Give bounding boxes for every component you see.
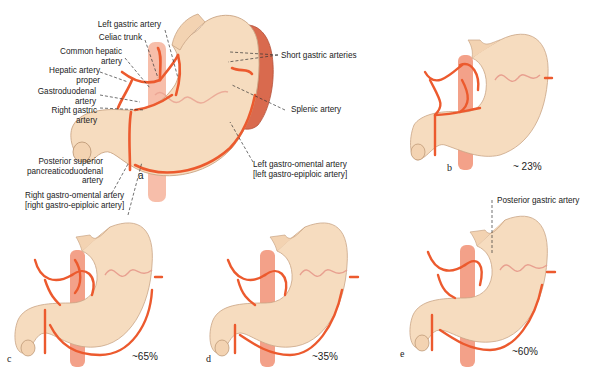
- label-left-gastric-artery: Left gastric artery: [98, 20, 161, 30]
- label-short-gastric-arteries: Short gastric arteries: [281, 51, 357, 61]
- label-celiac-trunk: Celiac trunk: [99, 33, 142, 43]
- label-line: artery: [101, 57, 122, 66]
- label-line: artery: [75, 97, 96, 106]
- label-line: Posterior superior: [38, 157, 103, 166]
- panel-letter-c: c: [7, 353, 11, 364]
- panel-b: b ~ 23%: [400, 20, 600, 170]
- panel-b-illustration: [400, 20, 600, 170]
- label-line: artery: [82, 176, 103, 185]
- panel-letter-b: b: [447, 162, 452, 173]
- panel-a: Left gastric artery Celiac trunk Common …: [0, 0, 330, 210]
- percentage-e: ~60%: [512, 346, 538, 357]
- percentage-b: ~ 23%: [513, 161, 542, 172]
- panel-letter-e: e: [400, 348, 404, 359]
- label-line: pancreaticoduodenal: [27, 167, 103, 176]
- label-common-hepatic-artery: Common hepatic artery: [60, 47, 122, 66]
- panel-c: c ~65%: [0, 215, 200, 367]
- label-line: Gastroduodenal: [38, 87, 96, 96]
- label-hepatic-artery-proper: Hepatic artery proper: [49, 66, 100, 85]
- label-line: Right gastric: [51, 106, 97, 115]
- panel-letter-d: d: [206, 353, 211, 364]
- label-posterior-gastric-artery: Posterior gastric artery: [497, 196, 579, 206]
- label-posterior-superior-pancreaticoduodenal-artery: Posterior superior pancreaticoduodenal a…: [27, 157, 103, 186]
- label-line: artery: [76, 116, 97, 125]
- label-line: [right gastro-epiploic artery]: [25, 201, 124, 210]
- label-line: Common hepatic: [60, 47, 122, 56]
- panel-e: Posterior gastric artery e ~60%: [400, 190, 600, 367]
- label-splenic-artery: Splenic artery: [291, 105, 341, 115]
- label-line: [left gastro-epiploic artery]: [253, 170, 347, 179]
- label-gastroduodenal-artery: Gastroduodenal artery: [38, 87, 96, 106]
- percentage-d: ~35%: [312, 351, 338, 362]
- panel-d-illustration: [200, 215, 400, 367]
- label-line: Hepatic artery: [49, 66, 100, 75]
- panel-d: d ~35%: [200, 215, 400, 367]
- label-line: Right gastro-omental artery: [25, 191, 124, 200]
- label-line: proper: [76, 76, 100, 85]
- label-right-gastric-artery: Right gastric artery: [51, 106, 97, 125]
- panel-letter-a: a: [138, 170, 144, 181]
- label-line: Left gastro-omental artery: [253, 160, 347, 169]
- percentage-c: ~65%: [132, 351, 158, 362]
- panel-e-illustration: [400, 190, 600, 367]
- label-left-gastro-omental-artery: Left gastro-omental artery [left gastro-…: [253, 160, 347, 179]
- label-right-gastro-omental-artery: Right gastro-omental artery [right gastr…: [25, 191, 124, 210]
- panel-c-illustration: [0, 215, 200, 367]
